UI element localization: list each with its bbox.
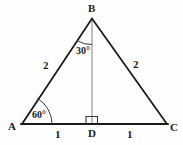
angle-label-a: 60° <box>32 110 46 120</box>
vertex-label-b: B <box>88 3 95 14</box>
side-label-ad: 1 <box>55 129 61 140</box>
vertex-label-c: C <box>170 122 178 133</box>
geometry-figure: B A C D 2 2 1 1 30° 60° <box>0 0 183 145</box>
side-label-dc: 1 <box>127 129 133 140</box>
side-label-ab: 2 <box>43 60 49 71</box>
angle-arc-b <box>77 41 92 45</box>
angle-label-b: 30° <box>76 46 90 56</box>
vertex-label-a: A <box>8 121 16 132</box>
triangle-svg <box>0 0 183 145</box>
vertex-label-d: D <box>88 128 96 139</box>
side-label-bc: 2 <box>133 59 139 70</box>
